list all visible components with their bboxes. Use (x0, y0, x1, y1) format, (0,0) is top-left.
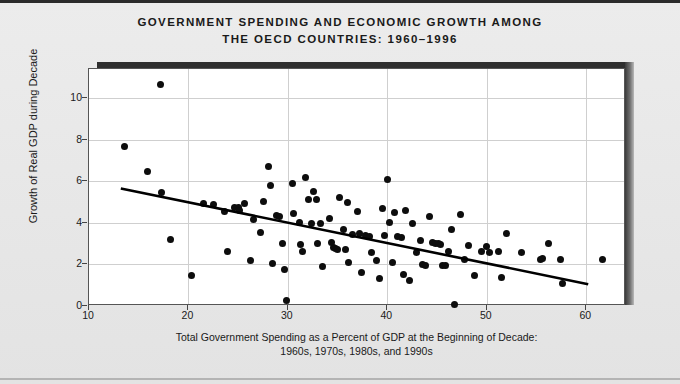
y-axis-tick-marks (0, 68, 90, 305)
x-axis-tick-mark (585, 305, 586, 310)
x-axis-tick-mark (187, 305, 188, 310)
x-axis-tick-marks (88, 0, 625, 384)
x-axis-tick-mark (287, 305, 288, 310)
x-axis-title: Total Government Spending as a Percent o… (88, 330, 625, 358)
y-axis-tick-mark (82, 139, 87, 140)
y-axis-tick-mark (82, 222, 87, 223)
page-background: GOVERNMENT SPENDING AND ECONOMIC GROWTH … (0, 0, 680, 384)
x-axis-title-line-2: 1960s, 1970s, 1980s, and 1990s (88, 344, 625, 358)
figure-shadow-right (625, 62, 634, 305)
y-axis-tick-mark (82, 263, 87, 264)
x-axis-title-line-1: Total Government Spending as a Percent o… (88, 330, 625, 344)
x-axis-tick-mark (386, 305, 387, 310)
x-axis-tick-mark (486, 305, 487, 310)
y-axis-title: Growth of Real GDP during Decade (27, 41, 39, 231)
y-axis-tick-mark (82, 97, 87, 98)
x-axis-tick-mark (88, 305, 89, 310)
y-axis-tick-mark (82, 305, 87, 306)
y-axis-tick-mark (82, 180, 87, 181)
